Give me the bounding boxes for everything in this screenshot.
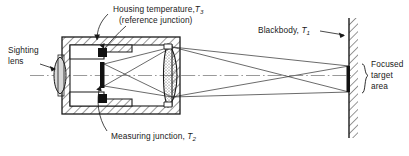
- label-blackbody: Blackbody, T1: [258, 25, 310, 37]
- label-sighting-lens-line2: lens: [8, 56, 24, 67]
- focused-target-brace: [362, 64, 368, 93]
- objective-lens-seat-top: [164, 44, 172, 49]
- reference-junction-block-upper: [98, 48, 107, 57]
- label-sighting-lens-line1: Sighting: [8, 45, 39, 56]
- label-housing-temperature: Housing temperature,T3: [113, 4, 204, 16]
- label-focused-line3: area: [371, 81, 388, 92]
- label-reference-junction: (reference junction): [119, 15, 192, 26]
- arrowhead-blackbody: [339, 32, 345, 38]
- label-focused-line2: target: [371, 70, 393, 81]
- focused-target-strip: [347, 66, 351, 92]
- ray-bundle: [104, 47, 349, 97]
- label-measuring-junction: Measuring junction, T2: [111, 131, 196, 143]
- blackbody-wall-hatch: [349, 18, 358, 138]
- diagram-canvas: [0, 0, 409, 156]
- objective-lens-seat-bottom: [164, 102, 172, 107]
- radiation-thermometer-diagram: Housing temperature,T3 (reference juncti…: [0, 0, 409, 156]
- label-focused-line1: Focused: [371, 59, 404, 70]
- reference-junction-block-lower: [98, 94, 107, 103]
- measuring-junction-detector: [100, 62, 105, 88]
